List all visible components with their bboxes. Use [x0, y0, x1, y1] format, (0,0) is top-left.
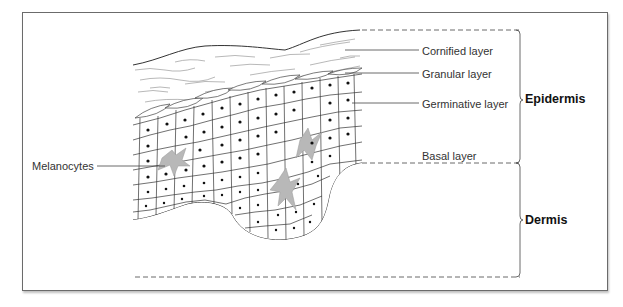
region-epidermis: Epidermis [525, 92, 585, 106]
skin-cross-section [0, 0, 623, 307]
label-granular-layer: Granular layer [422, 68, 492, 80]
label-cornified-layer: Cornified layer [422, 45, 493, 57]
tissue-illustration [130, 25, 370, 245]
region-dermis: Dermis [525, 213, 567, 227]
label-germinative-layer: Germinative layer [422, 98, 508, 110]
label-melanocytes: Melanocytes [32, 160, 94, 172]
label-basal-layer: Basal layer [422, 150, 476, 162]
